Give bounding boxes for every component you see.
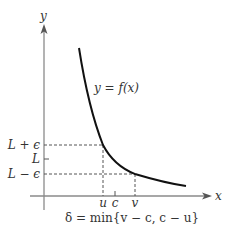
c-label: c [112,196,119,210]
curve-label: y = f(x) [93,81,139,95]
u-label: u [99,196,107,210]
y-axis-label: y [39,9,47,23]
upper-bound-label: L + ϵ [7,138,41,152]
v-label: v [132,196,139,210]
function-curve [79,48,186,186]
axes: y x [30,9,222,210]
limit-label: L [31,152,40,166]
dashed-guides [44,145,135,196]
lower-bound-label: L − ϵ [7,167,41,181]
x-axis-label: x [215,189,222,203]
epsilon-delta-diagram: y x y = f(x) L + ϵ L L − ϵ u c v δ = min… [0,0,233,234]
delta-formula: δ = min{v − c, c − u} [65,211,199,225]
